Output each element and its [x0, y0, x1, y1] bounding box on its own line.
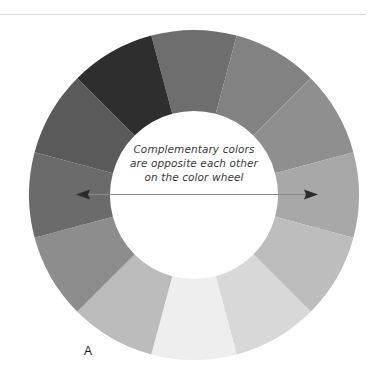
wheel-caption: Complementary colors are opposite each o…	[111, 142, 277, 184]
caption-line-2: are opposite each other	[111, 156, 277, 170]
figure-panel: Complementary colors are opposite each o…	[0, 0, 381, 385]
caption-line-1: Complementary colors	[111, 142, 277, 156]
panel-label-a: A	[84, 344, 92, 358]
color-wheel-container	[0, 0, 381, 385]
color-wheel-svg	[0, 0, 381, 385]
caption-line-3: on the color wheel	[111, 170, 277, 184]
